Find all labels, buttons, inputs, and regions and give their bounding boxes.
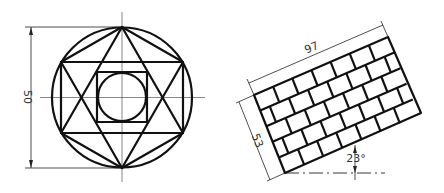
brick-joint-line (355, 124, 361, 140)
arrowhead-bottom (29, 160, 33, 168)
angle-label: 23° (346, 152, 366, 165)
arrowhead-angle-bottom (353, 166, 357, 173)
brick-joint-line (289, 98, 295, 114)
brick-joint-line (385, 57, 391, 73)
brick-figure: 97 53 23° (236, 21, 421, 181)
brick-grid (260, 45, 413, 164)
brick-joint-line (311, 70, 317, 86)
brick-joint-line (305, 110, 311, 126)
brick-joint-line (375, 116, 381, 132)
brick-joint-line (308, 90, 314, 106)
brick-joint-line (286, 118, 292, 134)
extension-line-right (381, 21, 388, 37)
brick-outline (254, 37, 421, 173)
brick-joint-line (340, 113, 346, 129)
brick-joint-line (282, 138, 288, 154)
brick-joint-line (343, 93, 349, 109)
dimension-53: 53 (236, 95, 285, 181)
brick-joint-line (359, 105, 365, 121)
brick-joint-line (327, 82, 333, 98)
brick-joint-line (369, 45, 375, 61)
hexagram-figure: 50 (21, 12, 205, 182)
brick-joint-line (346, 73, 352, 89)
brick-joint-line (301, 129, 307, 145)
brick-joint-line (298, 149, 304, 165)
brick-joint-line (273, 87, 279, 103)
dimension-label-53: 53 (249, 132, 266, 150)
brick-joint-line (320, 121, 326, 137)
extension-line-top (236, 95, 254, 103)
dimension-line (249, 25, 383, 83)
brick-joint-line (394, 108, 400, 124)
brick-joint-line (362, 85, 368, 101)
dimension-label-97: 97 (303, 39, 321, 56)
brick-joint-line (350, 54, 356, 70)
brick-joint-line (336, 133, 342, 149)
brick-joint-line (365, 65, 371, 81)
brick-joint-line (292, 78, 298, 94)
brick-joint-line (324, 101, 330, 117)
brick-joint-line (397, 88, 403, 104)
arrowhead-top (29, 27, 33, 35)
brick-joint-line (270, 106, 276, 122)
dimension-label-50: 50 (21, 90, 34, 104)
brick-joint-line (331, 62, 337, 78)
brick-joint-line (378, 96, 384, 112)
brick-joint-line (317, 141, 323, 157)
technical-drawing: 50 97 53 23° (0, 0, 444, 193)
brick-joint-line (381, 76, 387, 92)
